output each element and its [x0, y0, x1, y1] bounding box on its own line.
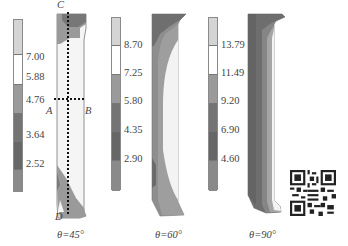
caption-theta-90: θ=90° — [249, 229, 276, 240]
qr-code-icon[interactable] — [290, 170, 336, 216]
